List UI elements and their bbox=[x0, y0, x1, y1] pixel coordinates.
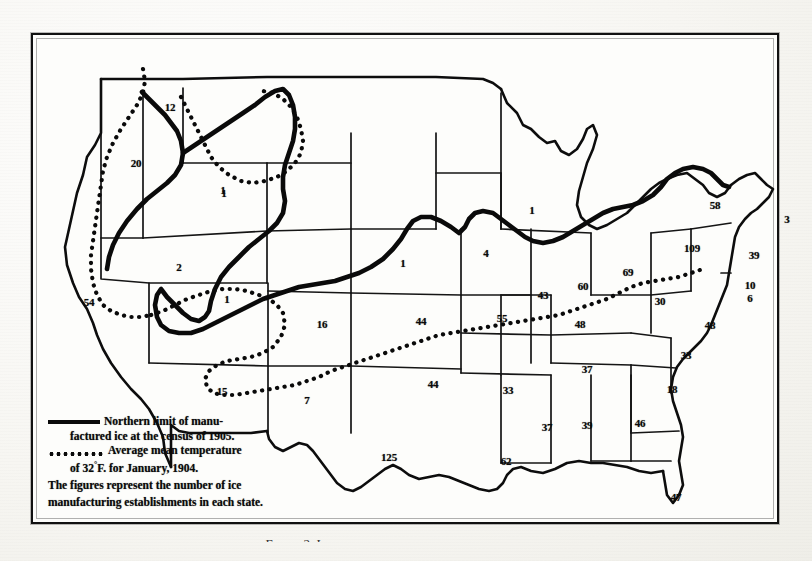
state-value-ok: 44 bbox=[428, 378, 439, 390]
state-value-sc: 18 bbox=[667, 383, 678, 395]
state-value-nv: 2 bbox=[176, 261, 181, 273]
state-value-ia: 4 bbox=[483, 247, 488, 259]
state-value-va: 48 bbox=[705, 319, 716, 331]
state-value-ut: 1 bbox=[224, 293, 229, 305]
legend-dotted-label-line2: of 32°F. for January, 1904. bbox=[48, 458, 348, 475]
state-value-wi: 1 bbox=[529, 204, 534, 216]
state-value-de: 10 bbox=[745, 279, 756, 291]
state-value-ga: 46 bbox=[635, 417, 646, 429]
state-value-tn: 37 bbox=[582, 363, 593, 375]
legend-note-line1: The figures represent the number of ice bbox=[48, 478, 348, 492]
legend-solid-label-line2: factured ice at the census of 1905. bbox=[48, 429, 348, 443]
map-legend: Northern limit of manu- factured ice at … bbox=[48, 414, 348, 509]
state-value-co: 16 bbox=[317, 318, 328, 330]
state-value-il: 43 bbox=[538, 289, 549, 301]
state-value-ks: 44 bbox=[416, 315, 427, 327]
state-value-wa: 12 bbox=[165, 101, 176, 113]
legend-temp-prefix: of 32 bbox=[70, 462, 94, 474]
state-value-or: 20 bbox=[131, 157, 142, 169]
state-value-fl: 47 bbox=[671, 491, 682, 503]
state-value-ar: 33 bbox=[503, 384, 514, 396]
state-value-mo: 55 bbox=[497, 312, 508, 324]
legend-row-dotted: Average mean temperature bbox=[48, 443, 348, 457]
state-value-nj: 39 bbox=[749, 249, 760, 261]
state-value-md: 6 bbox=[747, 292, 752, 304]
state-value-al: 39 bbox=[582, 419, 593, 431]
figure-caption: Figure 2. Ice production and the line of… bbox=[0, 536, 812, 561]
state-value-tx: 125 bbox=[381, 451, 397, 463]
state-value-in: 60 bbox=[578, 280, 589, 292]
state-value-ca: 54 bbox=[84, 296, 95, 308]
state-value-wv: 30 bbox=[655, 295, 666, 307]
state-value-ne: 1 bbox=[400, 257, 405, 269]
state-value-mt: 1 bbox=[221, 187, 226, 199]
state-value-ky: 48 bbox=[575, 318, 586, 330]
figure-caption-text: Figure 2. Ice production and the line of… bbox=[0, 536, 812, 552]
state-value-ma: 3 bbox=[784, 213, 789, 225]
state-value-nc: 33 bbox=[681, 349, 692, 361]
legend-row-solid: Northern limit of manu- bbox=[48, 414, 348, 428]
state-value-oh: 69 bbox=[623, 266, 634, 278]
dotted-line-swatch bbox=[48, 443, 104, 457]
state-value-ms: 37 bbox=[542, 421, 553, 433]
state-value-la: 62 bbox=[501, 455, 512, 467]
state-value-nm: 7 bbox=[304, 394, 309, 406]
legend-solid-label-line1: Northern limit of manu- bbox=[104, 414, 223, 428]
legend-note-line2: manufacturing establishments in each sta… bbox=[48, 495, 348, 509]
legend-dotted-label-line1: Average mean temperature bbox=[108, 443, 242, 457]
solid-line-swatch bbox=[48, 414, 100, 424]
state-value-ny: 58 bbox=[710, 199, 721, 211]
state-value-az: 15 bbox=[217, 385, 228, 397]
state-value-pa: 109 bbox=[684, 242, 700, 254]
legend-temp-suffix: F. for January, 1904. bbox=[97, 462, 198, 474]
